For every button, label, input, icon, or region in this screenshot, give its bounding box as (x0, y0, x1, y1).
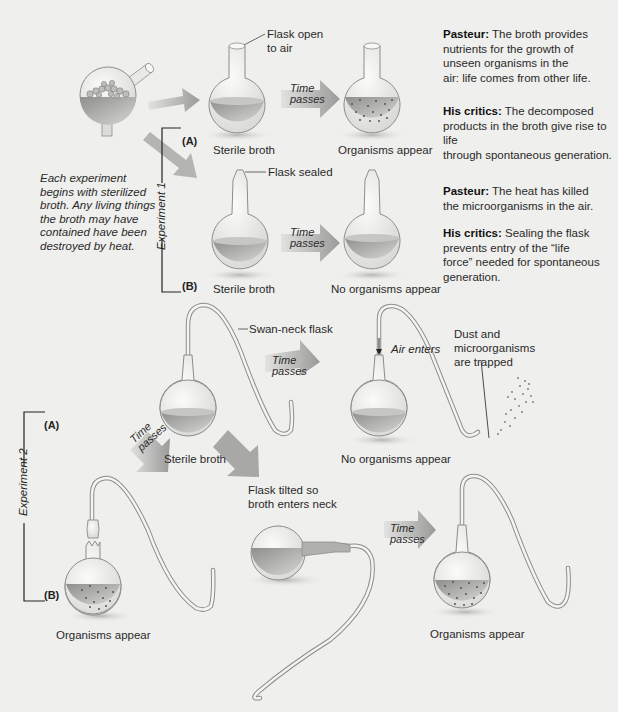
critics-label: His critics: (443, 105, 502, 117)
callout-line: Flask open (267, 27, 323, 41)
critics-label: His critics: (443, 227, 502, 239)
time-passes-1b: Time passes (290, 227, 325, 249)
intro-line: destroyed by heat. (40, 240, 155, 254)
flask-sealed-sterile (204, 170, 276, 281)
intro-line: the broth may have (40, 213, 155, 227)
pasteur-experiments-diagram: Each experiment begins with sterilized b… (0, 0, 618, 712)
caption-organisms-appear-1a: Organisms appear (338, 143, 433, 157)
flask-sealed-callout: Flask sealed (268, 165, 333, 179)
experiment2-tag-b: (B) (44, 589, 59, 601)
broken-neck-flask-organisms (64, 478, 213, 622)
caption-no-organisms-2a: No organisms appear (341, 452, 451, 466)
arrow-text-line: passes (290, 94, 325, 105)
air-enters-label: Air enters (391, 342, 440, 356)
experiment1-label: Experiment 1 (155, 182, 167, 250)
experiment1-tag-b: (B) (182, 280, 197, 292)
text-line: air: life comes from other life. (443, 71, 618, 86)
dust-particles (497, 377, 534, 435)
text-line: The broth provides (489, 28, 588, 40)
flask-open-organisms (336, 43, 408, 141)
text-line: Sealing the flask (502, 227, 590, 239)
tilt-callout: Flask tilted so broth enters neck (248, 484, 337, 511)
intro-line: contained have been (40, 226, 155, 240)
text-line: products in the broth give rise to life (443, 119, 618, 148)
exp1a-critics-text: His critics: The decomposed products in … (443, 104, 618, 162)
callout-line: Flask tilted so (248, 484, 337, 498)
intro-text: Each experiment begins with sterilized b… (40, 172, 155, 253)
callout-line: Dust and (454, 327, 535, 341)
exp1b-critics-text: His critics: Sealing the flask prevents … (443, 226, 618, 284)
text-line: through spontaneous generation. (443, 148, 618, 163)
exp1a-pasteur-text: Pasteur: The broth provides nutrients fo… (443, 27, 618, 85)
arrow-to-exp1a (148, 88, 200, 112)
text-line: force” needed for spontaneous (443, 255, 618, 270)
dust-trap-callout: Dust and microorganisms are trapped (454, 327, 535, 369)
callout-line: microorganisms (454, 341, 535, 355)
arrow-text-line: passes (290, 238, 325, 249)
caption-organisms-appear-2b-tilted: Organisms appear (430, 627, 525, 641)
pasteur-label: Pasteur: (443, 185, 489, 197)
text-line: The decomposed (502, 105, 594, 117)
intro-line: broth. Any living things (40, 199, 155, 213)
text-line: prevents entry of the “life (443, 241, 618, 256)
pasteur-label: Pasteur: (443, 28, 489, 40)
callout-line: to air (267, 41, 323, 55)
flask-sealed-no-organisms (336, 170, 408, 281)
callout-line: broth enters neck (248, 498, 337, 512)
text-line: The heat has killed (489, 185, 589, 197)
flask-open-sterile (201, 43, 273, 141)
time-passes-2b: Time passes (390, 523, 425, 545)
experiment2-label: Experiment 2 (17, 448, 29, 516)
text-line: the microorganisms in the air. (443, 199, 618, 214)
sterilizing-flask (80, 62, 155, 136)
callout-line: are trapped (454, 355, 535, 369)
time-passes-2a: Time passes (272, 355, 307, 377)
arrow-text-line: passes (390, 534, 425, 545)
caption-sterile-broth-1b: Sterile broth (213, 282, 275, 296)
intro-line: begins with sterilized (40, 186, 155, 200)
text-line: nutrients for the growth of (443, 42, 618, 57)
exp1b-pasteur-text: Pasteur: The heat has killed the microor… (443, 184, 618, 213)
flask-open-callout: Flask open to air (267, 27, 323, 55)
experiment1-tag-a: (A) (182, 135, 197, 147)
time-passes-1a: Time passes (290, 83, 325, 105)
caption-sterile-broth-1a: Sterile broth (213, 143, 275, 157)
caption-organisms-appear-2b-broken: Organisms appear (56, 628, 151, 642)
tilted-flask (245, 526, 373, 698)
experiment2-tag-a: (A) (44, 419, 59, 431)
text-line: generation. (443, 270, 618, 285)
swan-neck-callout: Swan-neck flask (249, 322, 333, 336)
caption-sterile-broth-2: Sterile broth (164, 452, 226, 466)
swan-neck-flask-organisms (429, 476, 569, 618)
caption-no-organisms-1b: No organisms appear (331, 282, 441, 296)
intro-line: Each experiment (40, 172, 155, 186)
arrow-text-line: passes (272, 366, 307, 377)
text-line: unseen organisms in the (443, 56, 618, 71)
